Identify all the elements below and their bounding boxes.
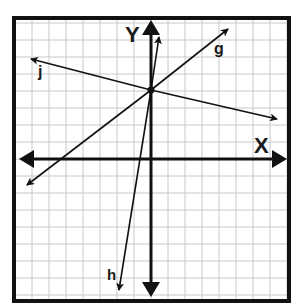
line-g bbox=[151, 29, 228, 90]
line-j-label: j bbox=[37, 63, 42, 80]
line-g-label: g bbox=[214, 40, 224, 57]
line-h bbox=[119, 90, 151, 290]
x-axis-label: X bbox=[254, 133, 269, 158]
y-axis-up-arrow-icon bbox=[142, 20, 160, 35]
y-axis-label: Y bbox=[125, 22, 140, 47]
x-axis-right-arrow-icon bbox=[272, 150, 287, 168]
x-axis bbox=[19, 150, 287, 168]
intersection-point bbox=[148, 87, 155, 94]
x-axis-left-arrow-icon bbox=[19, 150, 34, 168]
coordinate-plane: Y X g h j bbox=[0, 0, 293, 307]
line-g bbox=[27, 90, 151, 185]
line-j bbox=[151, 90, 277, 119]
line-h-label: h bbox=[107, 266, 116, 283]
